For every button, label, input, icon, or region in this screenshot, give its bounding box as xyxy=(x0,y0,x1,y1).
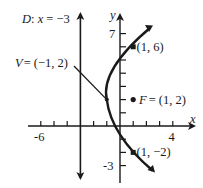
point-1-6-label: (1, 6) xyxy=(137,40,164,54)
point-1-neg2-label: (1, −2) xyxy=(137,145,171,159)
focus-label-prefix: F xyxy=(138,93,147,107)
x-tick-label-left: -6 xyxy=(34,130,44,144)
y-axis-label: y xyxy=(108,8,116,22)
y-tick-label-top: 7 xyxy=(109,27,115,41)
vertex-leader-line xyxy=(74,66,107,100)
vertex-label: V= (−1, 2) xyxy=(15,56,68,70)
x-tick-label-right: 4 xyxy=(169,130,176,144)
focus-point xyxy=(131,97,136,102)
x-axis-label: x xyxy=(189,112,196,126)
point-1-neg2 xyxy=(131,150,136,155)
y-tick-label-bottom: -3 xyxy=(103,159,113,173)
focus-label: F= (1, 2) xyxy=(138,93,186,107)
parabola-diagram: -6 4 x 7 -3 y D: x = −3 xyxy=(0,0,203,188)
vertex-point xyxy=(105,98,109,102)
x-axis-ticks xyxy=(41,121,173,126)
directrix-label-prefix: D xyxy=(21,12,31,26)
focus-label-coord: = (1, 2) xyxy=(149,93,186,107)
point-1-6 xyxy=(131,44,136,49)
directrix-label: D: x = −3 xyxy=(21,12,70,26)
vertex-label-coord: = (−1, 2) xyxy=(24,56,68,70)
vertex-label-prefix: V xyxy=(15,56,24,70)
